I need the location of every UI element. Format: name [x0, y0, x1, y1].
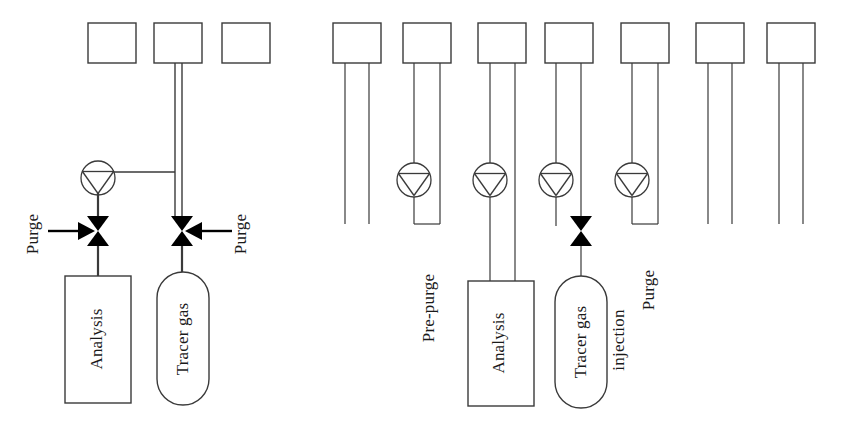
right-top-box-3: [478, 23, 526, 63]
right-top-box-7: [767, 23, 815, 63]
diagram-canvas: Purge Analysis Purge Tracer gas: [0, 0, 842, 438]
left-tracer-gas-label: Tracer gas: [173, 303, 192, 376]
schematic-figure: Purge Analysis Purge Tracer gas: [0, 0, 842, 438]
left-pump-icon: [81, 161, 115, 195]
left-top-box-2: [154, 23, 202, 63]
left-purge2-label: Purge: [231, 214, 250, 254]
left-analysis-label: Analysis: [87, 308, 106, 369]
right-top-box-1: [333, 23, 381, 63]
right-col2-pump-icon: [397, 163, 431, 197]
left-purge-label: Purge: [23, 214, 42, 254]
right-tracer-gas-label: Tracer gas: [571, 306, 590, 379]
right-col5-pump-icon: [615, 163, 649, 197]
left-top-box-3: [222, 23, 270, 63]
left-top-box-1: [88, 23, 136, 63]
right-top-box-5: [621, 23, 669, 63]
right-top-box-4: [545, 23, 593, 63]
right-top-box-6: [696, 23, 744, 63]
right-col3-pump-icon: [473, 163, 507, 197]
right-purge-label: Purge: [639, 270, 658, 310]
right-col4-pump-icon: [539, 163, 573, 197]
pre-purge-label: Pre-purge: [419, 274, 438, 343]
right-analysis-label: Analysis: [489, 312, 508, 373]
injection-label: injection: [609, 309, 628, 371]
right-top-box-2: [403, 23, 451, 63]
